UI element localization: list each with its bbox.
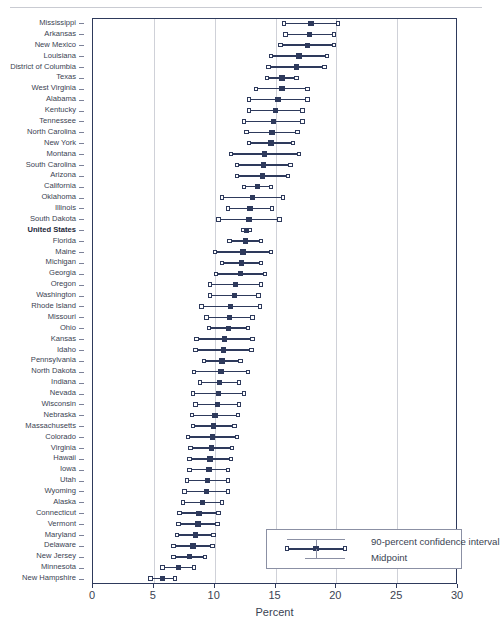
ci-cap-lower xyxy=(229,152,233,156)
y-axis-label: South Dakota xyxy=(30,214,76,225)
ci-cap-upper xyxy=(216,511,220,515)
y-axis-tick xyxy=(79,448,84,449)
ci-cap-lower xyxy=(216,217,220,221)
x-axis-tick-label: 5 xyxy=(133,589,173,601)
data-row xyxy=(92,268,457,279)
y-axis-label: United States xyxy=(27,225,76,236)
x-axis-tick-label: 20 xyxy=(315,589,355,601)
y-axis-label: Oklahoma xyxy=(41,192,76,203)
y-axis-label: New Hampshire xyxy=(22,573,76,584)
y-axis-label: New York xyxy=(44,138,76,149)
ci-cap-upper xyxy=(305,97,309,101)
ci-cap-lower xyxy=(176,522,180,526)
midpoint-marker xyxy=(200,500,205,505)
midpoint-marker xyxy=(216,391,221,396)
midpoint-marker xyxy=(190,543,195,548)
y-axis-tick xyxy=(79,459,84,460)
ci-cap-lower xyxy=(269,54,273,58)
x-axis-tick-label: 10 xyxy=(194,589,234,601)
midpoint-marker xyxy=(215,402,220,407)
ci-cap-upper xyxy=(226,489,230,493)
midpoint-marker xyxy=(273,108,278,113)
y-axis-tick xyxy=(79,415,84,416)
midpoint-marker xyxy=(221,347,226,352)
ci-cap-upper xyxy=(250,337,254,341)
y-axis-label: Kentucky xyxy=(45,105,76,116)
midpoint-marker xyxy=(233,282,238,287)
ci-cap-lower xyxy=(192,370,196,374)
midpoint-marker xyxy=(268,140,273,145)
y-axis-tick xyxy=(79,187,84,188)
data-row xyxy=(92,475,457,486)
ci-cap-lower xyxy=(148,576,152,580)
midpoint-marker xyxy=(262,151,267,156)
midpoint-marker xyxy=(238,271,243,276)
y-axis-label: Washington xyxy=(36,290,76,301)
ci-cap-upper xyxy=(226,468,230,472)
ci-cap-upper xyxy=(238,359,242,363)
y-axis-tick xyxy=(79,491,84,492)
ci-cap-upper xyxy=(258,304,262,308)
ci-cap-upper xyxy=(300,108,304,112)
legend-sample-marker xyxy=(275,530,367,568)
y-axis-label: Pennsylvania xyxy=(31,355,76,366)
ci-cap-lower xyxy=(247,97,251,101)
y-axis-tick xyxy=(79,437,84,438)
y-axis-tick xyxy=(79,165,84,166)
midpoint-marker xyxy=(260,173,265,178)
ci-cap-lower xyxy=(227,239,231,243)
y-axis-label: Michigan xyxy=(46,257,76,268)
ci-cap-upper xyxy=(203,555,207,559)
y-axis-tick xyxy=(79,513,84,514)
y-axis-tick xyxy=(79,317,84,318)
x-axis-tick xyxy=(275,584,276,588)
ci-cap-upper xyxy=(325,54,329,58)
data-row xyxy=(92,149,457,160)
y-axis-label: New Mexico xyxy=(35,40,76,51)
data-row xyxy=(92,486,457,497)
midpoint-marker xyxy=(195,521,200,526)
data-row xyxy=(92,377,457,388)
y-axis-label: Kansas xyxy=(51,334,76,345)
data-row xyxy=(92,225,457,236)
data-row xyxy=(92,443,457,454)
ci-cap-lower xyxy=(177,511,181,515)
ci-cap-lower xyxy=(204,315,208,319)
data-row xyxy=(92,399,457,410)
ci-cap-upper xyxy=(229,457,233,461)
data-row xyxy=(92,18,457,29)
y-axis-label: Tennessee xyxy=(39,116,76,127)
data-row xyxy=(92,257,457,268)
y-axis-tick xyxy=(79,524,84,525)
y-axis-label: Vermont xyxy=(48,519,76,530)
midpoint-marker xyxy=(308,21,313,26)
y-axis-tick xyxy=(79,296,84,297)
midpoint-marker xyxy=(296,53,301,58)
ci-cap-upper xyxy=(215,522,219,526)
y-axis-tick xyxy=(79,361,84,362)
data-row xyxy=(92,432,457,443)
data-row xyxy=(92,29,457,40)
data-row xyxy=(92,51,457,62)
midpoint-marker xyxy=(250,195,255,200)
ci-cap-lower xyxy=(247,108,251,112)
midpoint-marker xyxy=(212,413,217,418)
data-row xyxy=(92,464,457,475)
ci-cap-upper xyxy=(230,446,234,450)
midpoint-marker xyxy=(211,423,216,428)
midpoint-marker xyxy=(261,162,266,167)
ci-cap-lower xyxy=(191,391,195,395)
ci-cap-lower xyxy=(160,565,164,569)
y-axis-tick xyxy=(79,67,84,68)
legend: 90-percent confidence interval Midpoint xyxy=(266,529,462,569)
x-axis-tick xyxy=(396,584,397,588)
y-axis-label: California xyxy=(44,181,76,192)
ci-cap-upper xyxy=(305,87,309,91)
ci-cap-lower xyxy=(266,65,270,69)
data-row xyxy=(92,116,457,127)
y-axis-label: West Virginia xyxy=(32,83,76,94)
data-row xyxy=(92,301,457,312)
ci-cap-lower xyxy=(194,337,198,341)
midpoint-marker xyxy=(176,565,181,570)
y-axis-label: Texas xyxy=(56,72,76,83)
